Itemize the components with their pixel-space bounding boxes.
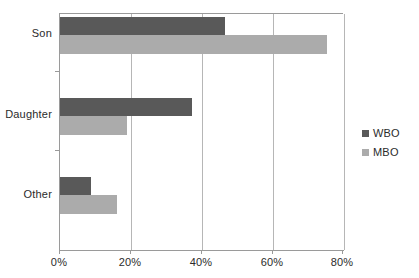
y-category-label-son: Son (32, 27, 52, 39)
legend-item-mbo[interactable]: MBO (362, 145, 417, 160)
bar-son-wbo (60, 17, 225, 35)
bar-other-mbo (60, 195, 117, 214)
y-category-label-daughter: Daughter (5, 108, 52, 120)
legend-label-wbo: WBO (373, 128, 400, 139)
y-tick-separator-2 (55, 150, 59, 151)
legend-item-wbo[interactable]: WBO (362, 126, 417, 141)
gridline-80 (344, 14, 345, 250)
bar-daughter-wbo (60, 98, 192, 116)
x-tick-80 (342, 250, 343, 254)
bar-chart: 0% 20% 40% 60% 80% Son Daughter Other WB… (0, 0, 419, 278)
x-tick-20 (130, 250, 131, 254)
legend: WBO MBO (362, 126, 417, 164)
x-tick-0 (59, 250, 60, 254)
x-tick-label-60: 60% (261, 256, 284, 268)
bar-son-mbo (60, 35, 327, 54)
y-axis-labels: Son Daughter Other (0, 0, 52, 278)
bar-daughter-mbo (60, 116, 127, 135)
y-tick-separator-1 (55, 71, 59, 72)
legend-label-mbo: MBO (373, 147, 399, 158)
x-tick-label-80: 80% (331, 256, 354, 268)
x-tick-40 (201, 250, 202, 254)
x-tick-label-0: 0% (51, 256, 67, 268)
bar-other-wbo (60, 177, 91, 195)
legend-swatch-wbo (362, 130, 369, 137)
plot-area (59, 13, 343, 250)
y-category-label-other: Other (23, 188, 52, 200)
legend-swatch-mbo (362, 149, 369, 156)
x-tick-label-20: 20% (119, 256, 142, 268)
x-tick-label-40: 40% (190, 256, 213, 268)
x-tick-60 (272, 250, 273, 254)
